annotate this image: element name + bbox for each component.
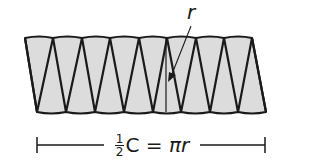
radius-label: r — [187, 0, 195, 24]
circumference-equals: C = — [125, 133, 168, 157]
fraction-denominator: 2 — [116, 146, 124, 158]
pi-r-text: πr — [169, 133, 189, 157]
fraction-one-half: 1 2 — [115, 133, 125, 158]
dimension-label: 1 2 C = πr — [104, 128, 200, 162]
fraction-numerator: 1 — [115, 133, 125, 146]
